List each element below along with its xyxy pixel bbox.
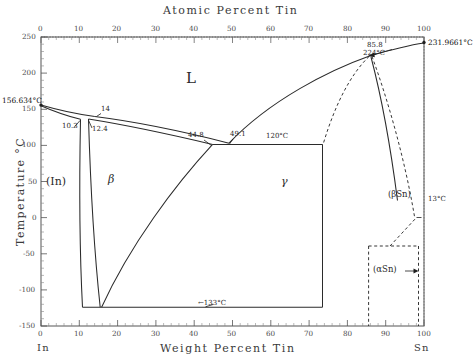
annotation-leaders <box>39 41 425 307</box>
top-tick-50: 50 <box>227 25 236 32</box>
corner-label-Sn: Sn <box>414 343 430 353</box>
leader-14 <box>97 114 102 117</box>
annotation-tin-melting-point: 231.9661°C <box>428 39 473 46</box>
top-tick-60: 60 <box>266 25 275 32</box>
top-tick-30: 30 <box>151 25 160 32</box>
liquidus-Sn-branch <box>229 56 370 143</box>
top-tick-100: 100 <box>417 25 431 32</box>
y-tick-neg50: -50 <box>23 250 35 257</box>
arrowhead-alphaSn <box>414 269 419 274</box>
annotation-allotropic-13: 13°C <box>428 196 446 203</box>
dashed-gamma-liquidus <box>324 57 370 144</box>
bottom-tick-20: 20 <box>112 330 121 337</box>
phase-label-betaSn: (βSn) <box>388 190 411 199</box>
bottom-tick-80: 80 <box>343 330 352 337</box>
y-tick-neg100: -100 <box>19 286 35 293</box>
phase-label-In: (In) <box>46 176 66 187</box>
phase-label-alphaSn: (αSn) <box>373 265 397 274</box>
top-tick-70: 70 <box>304 25 313 32</box>
phase-label-beta: β <box>108 174 114 185</box>
phase-label-liquid: L <box>186 71 196 86</box>
solidus-In-branch <box>41 106 81 120</box>
annotation-indium-melting-point: 156.634°C <box>2 97 42 104</box>
annotation-composition-10-3: 10.3 <box>62 123 78 130</box>
liquidus-to-eutectic <box>95 117 229 144</box>
In-solvus <box>80 119 83 307</box>
top-tick-0: 0 <box>38 25 43 32</box>
bottom-axis-title: Weight Percent Tin <box>160 343 296 354</box>
y-axis-title: Temperature °C <box>14 137 27 246</box>
annotation-composition-14: 14 <box>101 106 110 113</box>
phase-boundary-curves <box>41 43 424 307</box>
annotation-eutectic-120: 120°C <box>266 133 288 140</box>
phase-diagram-figure: Atomic Percent Tin 0 10 20 30 40 50 60 7… <box>0 0 474 359</box>
bottom-axis-ticks <box>41 320 424 326</box>
diagram-canvas <box>0 0 474 359</box>
annotation-composition-44-8: 44.8 <box>188 132 204 139</box>
liquidus-In-branch <box>41 105 95 117</box>
plot-frame <box>41 37 424 326</box>
y-tick-neg150: -150 <box>19 322 35 329</box>
y-tick-50: 50 <box>28 178 37 185</box>
bottom-tick-50: 50 <box>227 330 236 337</box>
beta-left-boundary <box>89 119 101 307</box>
bottom-tick-40: 40 <box>189 330 198 337</box>
bottom-tick-70: 70 <box>304 330 313 337</box>
y-tick-0: 0 <box>32 214 37 221</box>
top-tick-90: 90 <box>381 25 390 32</box>
marker-Sn-melting <box>422 41 425 44</box>
top-tick-20: 20 <box>112 25 121 32</box>
bottom-tick-60: 60 <box>266 330 275 337</box>
bottom-tick-10: 10 <box>74 330 83 337</box>
phase-label-gamma: γ <box>281 176 288 187</box>
annotation-composition-12-4: 12.4 <box>92 126 108 133</box>
bottom-tick-0: 0 <box>38 330 43 337</box>
annotation-composition-85-8: 85.8 <box>367 42 383 49</box>
betaSn-solvus-left <box>371 57 398 201</box>
top-tick-40: 40 <box>189 25 198 32</box>
bottom-tick-30: 30 <box>151 330 160 337</box>
bottom-tick-90: 90 <box>381 330 390 337</box>
beta-right-boundary <box>102 144 213 307</box>
annotation-peritectic-224: 224°C <box>363 50 385 57</box>
bottom-tick-100: 100 <box>417 330 431 337</box>
allotropic-13-tie <box>390 218 417 247</box>
top-axis-title: Atomic Percent Tin <box>163 5 299 16</box>
y-tick-200: 200 <box>22 69 36 76</box>
corner-label-In: In <box>37 343 50 353</box>
y-tick-150: 150 <box>22 105 36 112</box>
annotation-transformation-133: ←133°C <box>198 300 226 307</box>
top-tick-10: 10 <box>74 25 83 32</box>
top-tick-80: 80 <box>343 25 352 32</box>
y-tick-250: 250 <box>22 33 36 40</box>
annotation-composition-49-1: 49.1 <box>230 131 246 138</box>
